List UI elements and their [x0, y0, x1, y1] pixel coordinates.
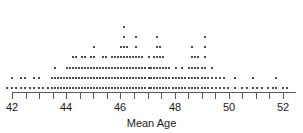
x-axis-minor-tick — [39, 92, 40, 99]
data-dot — [57, 87, 59, 89]
data-dot — [132, 77, 134, 79]
data-dot — [227, 87, 229, 89]
x-axis-line — [12, 92, 296, 93]
data-dot — [15, 87, 17, 89]
data-dot — [181, 77, 183, 79]
data-dot — [156, 67, 158, 69]
data-dot — [184, 87, 186, 89]
data-dot — [223, 77, 225, 79]
data-dot — [99, 87, 101, 89]
data-dot — [84, 56, 86, 58]
data-dot — [105, 67, 107, 69]
data-dot — [78, 87, 80, 89]
data-dot — [78, 77, 80, 79]
data-dot — [75, 67, 77, 69]
data-dot — [153, 67, 155, 69]
data-dot — [178, 77, 180, 79]
data-dot — [87, 77, 89, 79]
data-dot — [153, 87, 155, 89]
data-dot — [275, 77, 277, 79]
data-dot — [123, 56, 125, 58]
data-dot — [11, 87, 13, 89]
data-dot — [197, 67, 199, 69]
data-dot — [90, 56, 92, 58]
data-dot — [194, 87, 196, 89]
data-dot — [204, 87, 206, 89]
data-dot — [102, 77, 104, 79]
data-dot — [123, 87, 125, 89]
data-dot — [120, 46, 122, 48]
data-dot — [93, 56, 95, 58]
data-dot — [66, 77, 68, 79]
data-dot — [215, 87, 217, 89]
data-dot — [111, 56, 113, 58]
data-dot — [286, 87, 288, 89]
data-dot — [126, 87, 128, 89]
x-axis-major-tick — [66, 92, 67, 99]
data-dot — [165, 77, 167, 79]
data-dot — [96, 87, 98, 89]
data-dot — [207, 77, 209, 79]
data-dot — [123, 46, 125, 48]
x-axis-minor-tick — [26, 92, 27, 99]
data-dot — [102, 87, 104, 89]
data-dot — [150, 67, 152, 69]
data-dot — [144, 87, 146, 89]
x-axis-minor-tick — [148, 92, 149, 99]
data-dot — [81, 87, 83, 89]
x-axis-minor-tick — [215, 92, 216, 99]
data-dot — [204, 67, 206, 69]
data-dot — [20, 77, 22, 79]
data-dot — [75, 87, 77, 89]
data-dot — [172, 87, 174, 89]
data-dot — [135, 56, 137, 58]
data-dot — [178, 87, 180, 89]
data-dot — [24, 77, 26, 79]
data-dot — [111, 67, 113, 69]
data-dot — [75, 56, 77, 58]
x-axis-minor-tick — [80, 92, 81, 99]
data-dot — [96, 67, 98, 69]
data-dot — [129, 77, 131, 79]
data-dot — [191, 67, 193, 69]
data-dot — [105, 77, 107, 79]
x-axis-tick-label: 46 — [114, 101, 126, 113]
x-axis-minor-tick — [134, 92, 135, 99]
data-dot — [75, 77, 77, 79]
data-dot — [72, 87, 74, 89]
data-dot — [57, 77, 59, 79]
data-dot — [47, 87, 49, 89]
x-axis-major-tick — [120, 92, 121, 99]
x-axis-major-tick — [283, 92, 284, 99]
data-dot — [141, 87, 143, 89]
data-dot — [102, 56, 104, 58]
data-dot — [29, 87, 31, 89]
data-dot — [234, 87, 236, 89]
data-dot — [188, 77, 190, 79]
data-dot — [126, 46, 128, 48]
data-dot — [175, 77, 177, 79]
data-dot — [159, 67, 161, 69]
data-dot — [194, 77, 196, 79]
plot-area — [0, 0, 303, 92]
data-dot — [51, 77, 53, 79]
x-axis-major-tick — [175, 92, 176, 99]
data-dot — [219, 87, 221, 89]
data-dot — [211, 77, 213, 79]
data-dot — [168, 67, 170, 69]
data-dot — [123, 67, 125, 69]
data-dot — [175, 67, 177, 69]
x-axis-tick-label: 52 — [277, 101, 289, 113]
data-dot — [33, 87, 35, 89]
data-dot — [234, 77, 236, 79]
x-axis-major-tick — [12, 92, 13, 99]
data-dot — [63, 87, 65, 89]
x-axis-minor-tick — [107, 92, 108, 99]
data-dot — [201, 67, 203, 69]
data-dot — [165, 67, 167, 69]
data-dot — [252, 87, 254, 89]
data-dot — [93, 46, 95, 48]
data-dot — [69, 77, 71, 79]
data-dot — [42, 87, 44, 89]
data-dot — [87, 67, 89, 69]
